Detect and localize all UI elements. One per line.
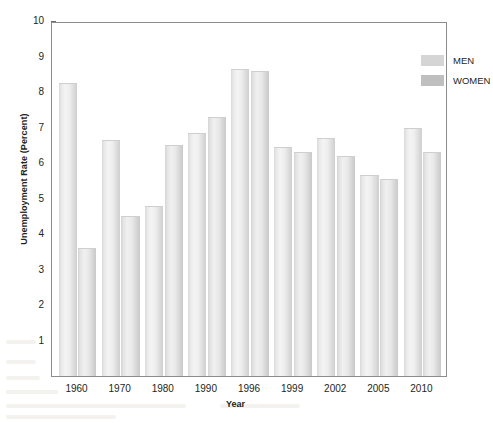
x-axis-title: Year xyxy=(0,399,471,409)
y-tick-label: 6 xyxy=(0,157,44,168)
y-tick-label: 8 xyxy=(0,86,44,97)
scan-artifact xyxy=(6,415,116,419)
scan-artifact xyxy=(6,360,36,364)
bar-2002-women xyxy=(337,156,355,376)
bar-1980-men xyxy=(145,206,163,376)
y-tick-label: 1 xyxy=(0,335,44,346)
y-axis-title: Unemployment Rate (Percent) xyxy=(19,79,29,279)
scan-artifact xyxy=(6,376,40,380)
bar-2010-women xyxy=(423,152,441,376)
y-tick-label: 10 xyxy=(0,15,44,26)
bar-2010-men xyxy=(404,128,422,377)
bar-2002-men xyxy=(317,138,335,376)
bar-1999-men xyxy=(274,147,292,376)
bar-1996-men xyxy=(231,69,249,376)
y-tick-label: 5 xyxy=(0,193,44,204)
y-tick-label: 9 xyxy=(0,51,44,62)
y-tick-label: 4 xyxy=(0,228,44,239)
x-tick-label-2010: 2010 xyxy=(391,383,451,394)
y-tick-label: 3 xyxy=(0,264,44,275)
bar-1960-women xyxy=(78,248,96,376)
legend-item-men: MEN xyxy=(421,52,493,68)
bar-1960-men xyxy=(59,83,77,376)
legend-label-women: WOMEN xyxy=(453,75,490,86)
legend-label-men: MEN xyxy=(453,55,474,66)
bar-1970-men xyxy=(102,140,120,376)
bar-1970-women xyxy=(121,216,139,376)
y-tick-label: 2 xyxy=(0,299,44,310)
bar-1999-women xyxy=(294,152,312,376)
bar-1996-women xyxy=(251,71,269,376)
bar-2005-men xyxy=(360,175,378,376)
plot-area: MEN WOMEN xyxy=(51,22,447,377)
bar-1990-women xyxy=(208,117,226,376)
legend-item-women: WOMEN xyxy=(421,72,493,88)
bar-2005-women xyxy=(380,179,398,376)
bar-1980-women xyxy=(165,145,183,376)
legend-swatch-women-icon xyxy=(421,75,444,86)
legend-swatch-men-icon xyxy=(421,55,444,66)
y-tick-label: 7 xyxy=(0,122,44,133)
chart-legend: MEN WOMEN xyxy=(421,52,493,92)
bar-1990-men xyxy=(188,133,206,376)
